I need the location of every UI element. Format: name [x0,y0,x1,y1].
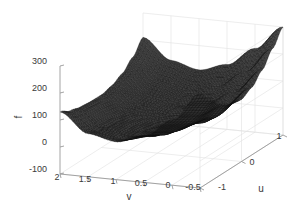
u-axis-label: u [258,183,264,194]
u-tick-label: 0 [249,157,254,167]
v-tick-label: 0.5 [135,178,148,188]
z-tick-label: 100 [32,110,47,120]
v-tick-label: 2 [54,172,59,182]
figure-container: 3002001000-10021.510.50-0.5-101fvu [0,0,297,218]
v-tick-label: -0.5 [185,182,201,192]
v-axis-label: v [127,191,132,202]
v-tick-label: 1.5 [79,174,92,184]
z-axis-label: f [13,115,24,118]
surface-plot-3d: 3002001000-10021.510.50-0.5-101fvu [0,0,297,218]
u-tick-label: -1 [218,182,226,192]
v-tick-label: 0 [165,180,170,190]
z-tick-label: 200 [32,83,47,93]
u-tick-label: 1 [276,131,281,141]
z-tick-label: 300 [32,56,47,66]
v-tick-label: 1 [110,176,115,186]
z-tick-label: 0 [42,137,47,147]
z-tick-label: -100 [29,164,47,174]
